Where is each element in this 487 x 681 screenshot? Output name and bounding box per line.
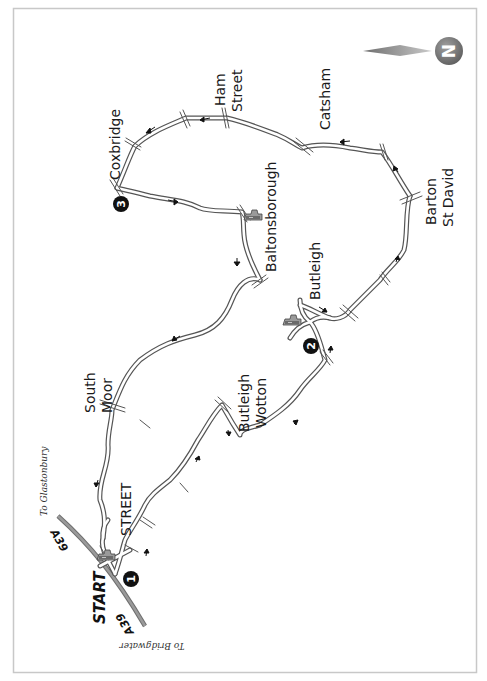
- label-south-moor-line2: Moor: [99, 378, 115, 413]
- label-catsham: Catsham: [317, 68, 333, 130]
- direction-label-glastonbury: To Glastonbury: [39, 446, 49, 516]
- svg-text:N: N: [439, 44, 459, 58]
- label-south-moor-line1: South: [82, 372, 98, 413]
- waypoint-marker-1: 1: [123, 571, 139, 587]
- pub-icon-baltonsborough: [244, 210, 262, 220]
- label-barton-line1: Barton: [423, 178, 439, 225]
- label-butleigh-wotton-line2: Wotton: [253, 378, 269, 428]
- label-street: STREET: [118, 482, 134, 536]
- pub-icon-butleigh: [283, 315, 301, 325]
- waypoint-marker-3: 3: [113, 196, 129, 212]
- label-baltonsborough: Baltonsborough: [263, 162, 279, 272]
- waypoint-marker-2: 2: [303, 338, 319, 354]
- label-ham-street-line2: Street: [229, 69, 245, 112]
- svg-text:2: 2: [305, 342, 318, 350]
- label-butleigh-wotton-line1: Butleigh: [236, 374, 252, 432]
- label-butleigh: Butleigh: [307, 242, 323, 300]
- route-roads: [100, 108, 422, 574]
- label-ham-street-line1: Ham: [212, 73, 228, 106]
- map-frame: [14, 9, 477, 673]
- pub-icon-street: [97, 550, 115, 560]
- svg-text:3: 3: [115, 200, 128, 208]
- label-coxbridge: Coxbridge: [107, 109, 123, 180]
- start-label: START: [91, 570, 109, 624]
- north-compass-icon: N: [363, 37, 463, 65]
- route-map: N: [0, 0, 487, 681]
- label-barton-line2: St David: [440, 168, 456, 227]
- direction-label-bridgwater: To Bridgwater: [119, 641, 185, 651]
- a39-label-bottom: A39: [113, 610, 137, 638]
- svg-text:1: 1: [125, 575, 138, 583]
- a39-label-top: A39: [47, 526, 71, 554]
- route-direction-arrows: [94, 117, 400, 556]
